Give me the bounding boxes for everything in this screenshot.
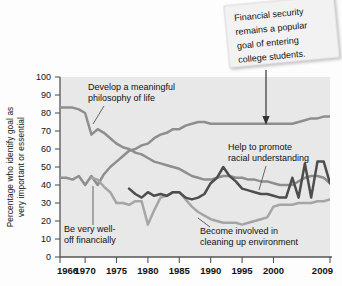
x-tick-label: 1985 xyxy=(169,265,191,276)
annotation-environment-line1: Become involved in xyxy=(200,226,278,236)
annotation-environment-line2: cleaning up environment xyxy=(200,237,299,247)
annotation-philosophy-line1: Develop a meaningful xyxy=(88,82,175,92)
y-tick-label: 80 xyxy=(41,108,51,118)
y-tick-label: 90 xyxy=(41,90,51,100)
line-chart-svg: 0102030405060708090100 19661970197519801… xyxy=(0,0,342,286)
y-tick-label: 50 xyxy=(41,162,51,172)
y-axis-ticks: 0102030405060708090100 xyxy=(36,72,60,262)
x-axis-ticks: 196619701975198019851990199520002009 xyxy=(57,257,333,276)
y-axis-title-line2: very important or essential xyxy=(16,117,26,217)
annotation-financial-line1: Be very well- xyxy=(64,224,116,234)
y-tick-label: 100 xyxy=(36,72,51,82)
chart-figure: 0102030405060708090100 19661970197519801… xyxy=(0,0,342,286)
annotation-racial-line2: racial understanding xyxy=(228,153,309,163)
x-tick-label: 1970 xyxy=(75,265,96,276)
x-tick-label: 2009 xyxy=(312,265,333,276)
y-tick-label: 40 xyxy=(41,180,51,190)
y-tick-label: 60 xyxy=(41,144,51,154)
annotation-philosophy-line2: philosophy of life xyxy=(88,93,155,103)
x-tick-label: 2000 xyxy=(263,265,284,276)
x-tick-label: 1975 xyxy=(106,265,128,276)
y-tick-label: 20 xyxy=(41,216,51,226)
y-tick-label: 30 xyxy=(41,198,51,208)
x-tick-label: 1980 xyxy=(137,265,158,276)
callout-box: Financial security remains a popular goa… xyxy=(224,0,339,68)
y-tick-label: 70 xyxy=(41,126,51,136)
y-tick-label: 10 xyxy=(41,234,51,244)
y-axis-title-line1: Percentage who identify goal as xyxy=(5,107,15,228)
y-axis-title: Percentage who identify goal as very imp… xyxy=(5,107,26,228)
annotation-racial-line1: Help to promote xyxy=(228,142,292,152)
x-tick-label: 1995 xyxy=(232,265,254,276)
y-tick-label: 0 xyxy=(46,252,51,262)
annotation-financial-line2: off financially xyxy=(64,235,116,245)
x-tick-label: 1990 xyxy=(200,265,221,276)
